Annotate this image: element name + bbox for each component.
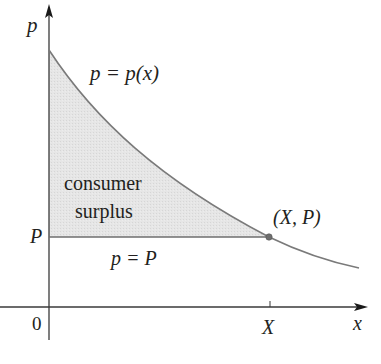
y-axis-label: p [25, 13, 38, 37]
origin-label: 0 [32, 313, 42, 334]
consumer-surplus-diagram: p x 0 X P p = p(x) consumer surplus p = … [0, 0, 381, 364]
x-tick-label: X [261, 316, 275, 338]
x-axis-label: x [352, 312, 362, 334]
demand-curve-label: p = p(x) [88, 61, 159, 85]
diagram-canvas: p x 0 X P p = p(x) consumer surplus p = … [0, 0, 381, 364]
point-label: (X, P) [273, 206, 321, 229]
price-line-label: p = P [109, 247, 157, 270]
region-label-line2: surplus [75, 200, 133, 223]
region-label-line1: consumer [64, 172, 142, 194]
equilibrium-point [266, 234, 272, 240]
y-tick-label: P [29, 225, 42, 247]
